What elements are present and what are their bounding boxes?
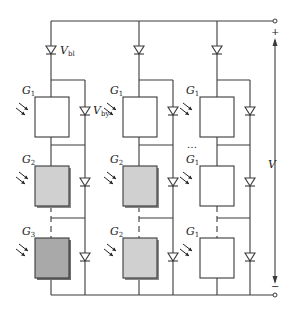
negative-terminal [273,293,277,297]
string-column-2: G1 G2 G2 [104,21,178,295]
blocking-diode-icon [46,46,56,54]
sunlight-icon [16,244,28,256]
positive-terminal [273,19,277,23]
solar-cell [123,97,157,137]
cell-label: G1 [186,225,199,239]
cell-label: G3 [22,225,35,239]
cell-label: G2 [110,153,123,167]
bypass-diode-icon [168,107,178,115]
cell-label: G1 [110,84,123,98]
sunlight-icon [180,244,192,256]
blocking-diode-icon [212,46,222,54]
pv-array-diagram: + − V Vbl Vby G1 G2 G3 [0,0,293,313]
blocking-diode-label: Vbl [60,44,75,58]
bypass-diode-icon [80,107,90,115]
cell-label: G1 [186,153,199,167]
bypass-diode-label: Vby [93,104,109,118]
solar-cell [200,166,234,206]
solar-cell [35,97,69,137]
bypass-diode-icon [245,107,255,115]
solar-cell [200,97,234,137]
bypass-diode-icon [80,178,90,186]
solar-cell [200,238,234,278]
bypass-diode-icon [245,178,255,186]
sunlight-icon [180,172,192,184]
solar-cell [35,166,69,206]
ellipsis: … [187,139,197,150]
string-column-1: Vbl Vby G1 G2 G3 [16,21,109,295]
solar-cell [123,238,157,278]
string-column-3: G1 … G1 G1 [180,21,255,295]
sunlight-icon [16,172,28,184]
bypass-diode-icon [168,178,178,186]
voltage-label: V [268,158,277,171]
bypass-diode-icon [80,253,90,261]
cell-label: G1 [186,84,199,98]
sunlight-icon [104,244,116,256]
solar-cell [35,238,69,278]
sunlight-icon [180,103,192,115]
plus-sign: + [271,26,279,37]
sunlight-icon [104,172,116,184]
sunlight-icon [16,103,28,115]
bypass-diode-icon [245,253,255,261]
cell-label: G1 [22,84,35,98]
cell-label: G2 [110,225,123,239]
cell-label: G2 [22,153,35,167]
solar-cell [123,166,157,206]
bypass-diode-icon [168,253,178,261]
blocking-diode-icon [134,46,144,54]
